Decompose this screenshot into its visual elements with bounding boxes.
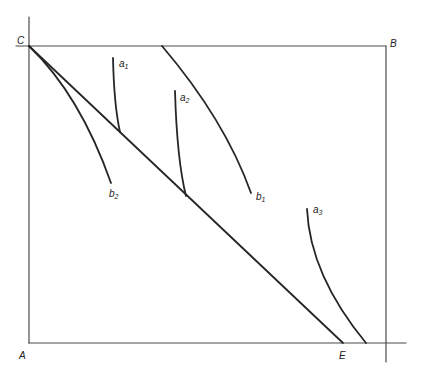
label-B: B — [390, 38, 397, 49]
diagram-canvas: C B A E a1 a2 a3 b1 b2 — [0, 0, 424, 376]
curve-b2 — [29, 46, 111, 183]
label-A: A — [18, 350, 26, 361]
label-C: C — [17, 35, 25, 46]
curve-a3 — [307, 209, 366, 343]
label-E: E — [339, 350, 346, 361]
label-b2: b2 — [109, 188, 119, 200]
label-a2: a2 — [180, 92, 190, 104]
curve-a1 — [113, 58, 120, 132]
label-a1: a1 — [119, 58, 129, 70]
label-b1: b1 — [256, 191, 266, 203]
curve-a2 — [175, 91, 186, 196]
label-a3: a3 — [313, 204, 323, 216]
